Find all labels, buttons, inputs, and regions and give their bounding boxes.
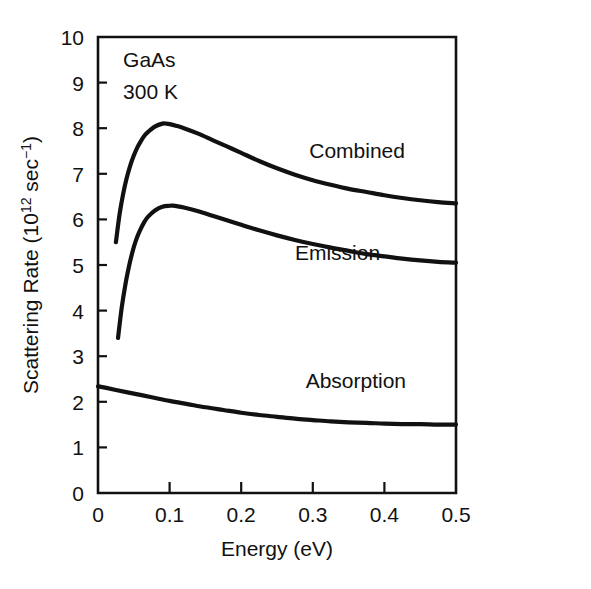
x-axis-ticks bbox=[170, 482, 385, 493]
y-tick-label-7: 7 bbox=[72, 163, 84, 186]
x-tick-label-0: 0 bbox=[92, 503, 104, 526]
x-tick-label-5: 0.5 bbox=[441, 503, 470, 526]
chart-annotations: GaAs300 K bbox=[123, 48, 178, 103]
x-tick-label-2: 0.2 bbox=[227, 503, 256, 526]
y-tick-label-10: 10 bbox=[61, 26, 84, 49]
x-axis-tick-labels: 00.10.20.30.40.5 bbox=[92, 503, 470, 526]
y-axis-title-exponent-neg1: −1 bbox=[18, 143, 34, 159]
curve-label-combined: Combined bbox=[309, 139, 405, 162]
y-axis-title-main: Scattering Rate (10 bbox=[19, 213, 42, 394]
curve-label-absorption: Absorption bbox=[306, 369, 406, 392]
scatter-rate-chart: 00.10.20.30.40.5 012345678910 CombinedEm… bbox=[0, 0, 591, 589]
x-tick-label-3: 0.3 bbox=[298, 503, 327, 526]
y-tick-label-4: 4 bbox=[72, 300, 84, 323]
y-axis-title: Scattering Rate (1012 sec−1) bbox=[18, 136, 42, 394]
figure-container: 00.10.20.30.40.5 012345678910 CombinedEm… bbox=[0, 0, 591, 589]
svg-text:Scattering Rate (1012 sec−1): Scattering Rate (1012 sec−1) bbox=[18, 136, 42, 394]
y-tick-label-5: 5 bbox=[72, 254, 84, 277]
y-tick-label-9: 9 bbox=[72, 72, 84, 95]
y-tick-label-3: 3 bbox=[72, 345, 84, 368]
y-axis-title-exponent-12: 12 bbox=[18, 197, 34, 213]
x-tick-label-1: 0.1 bbox=[155, 503, 184, 526]
y-axis-title-tail: ) bbox=[19, 136, 42, 143]
y-tick-label-0: 0 bbox=[72, 482, 84, 505]
y-tick-label-2: 2 bbox=[72, 391, 84, 414]
annotation-1: 300 K bbox=[123, 80, 178, 103]
annotation-0: GaAs bbox=[123, 48, 176, 71]
y-axis-ticks bbox=[98, 83, 107, 448]
curve-labels: CombinedEmissionAbsorption bbox=[295, 139, 406, 392]
y-tick-label-6: 6 bbox=[72, 208, 84, 231]
y-axis-tick-labels: 012345678910 bbox=[61, 26, 85, 505]
y-tick-label-8: 8 bbox=[72, 117, 84, 140]
curve-label-emission: Emission bbox=[295, 241, 380, 264]
curve-combined bbox=[116, 123, 456, 242]
x-tick-label-4: 0.4 bbox=[370, 503, 400, 526]
y-tick-label-1: 1 bbox=[72, 436, 84, 459]
x-axis-title: Energy (eV) bbox=[221, 537, 333, 560]
y-axis-title-mid: sec bbox=[19, 159, 42, 198]
curve-emission bbox=[118, 206, 456, 338]
